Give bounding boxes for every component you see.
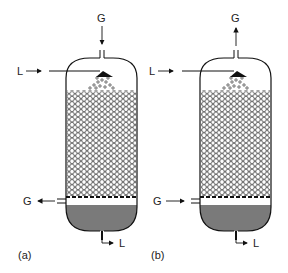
caption-b: (b) [151, 249, 164, 261]
distributor-b [230, 71, 247, 77]
spray-droplets-a [89, 77, 114, 89]
caption-a: (a) [18, 249, 31, 261]
gas-in-label-a: G [97, 12, 106, 24]
column-a: G L G L (a) [17, 12, 137, 261]
liquid-out-label-a: L [119, 237, 125, 249]
column-b: G L G L (b) [149, 12, 271, 261]
distributor-a [96, 71, 113, 77]
gas-bottom-label-b: G [153, 195, 162, 207]
liquid-out-label-b: L [253, 237, 259, 249]
liquid-in-label-a: L [17, 65, 23, 77]
liquid-pool-b [200, 205, 271, 231]
packed-column-diagram: G L G L (a) G [0, 0, 288, 273]
spray-droplets-b [223, 77, 248, 89]
gas-top-label-b: G [231, 12, 240, 24]
liquid-in-label-b: L [149, 65, 155, 77]
gas-out-label-a: G [23, 195, 32, 207]
liquid-pool-a [66, 205, 137, 231]
